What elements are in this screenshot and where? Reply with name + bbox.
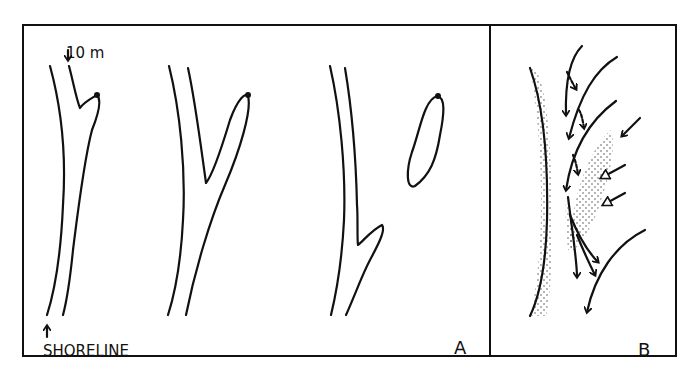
stage-1-spit <box>47 66 100 315</box>
scale-label: 10 m <box>66 44 104 62</box>
figure-canvas: 10 m SHORELINE A B <box>0 0 695 387</box>
panel-a-frame <box>23 25 490 356</box>
panel-a-letter: A <box>454 337 467 358</box>
panel-b-diagram <box>530 46 645 316</box>
shoreline-label: SHORELINE <box>43 342 129 360</box>
panel-b-letter: B <box>638 339 650 360</box>
stage-3-detached-bar <box>330 66 443 315</box>
stage-2-spit <box>168 66 251 315</box>
stippled-bar-sand <box>570 130 613 250</box>
